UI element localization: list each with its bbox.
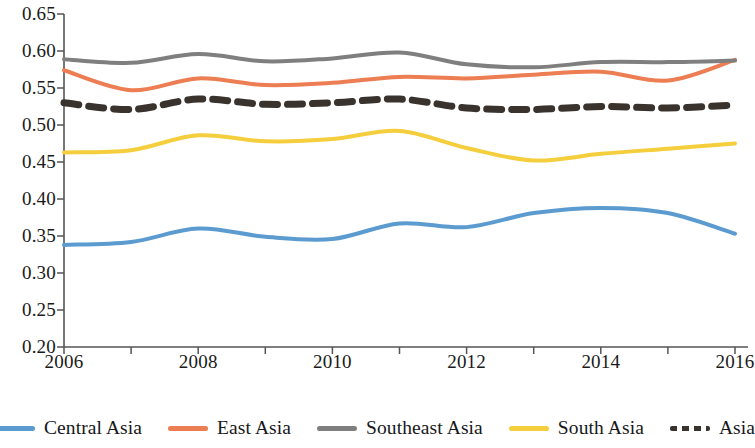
legend-item-label: Southeast Asia (366, 418, 483, 438)
x-tick-label: 2008 (179, 352, 218, 372)
x-tick-label: 2006 (45, 352, 84, 372)
legend-item-central-asia[interactable]: Central Asia (0, 418, 142, 438)
legend-item-southeast-asia[interactable]: Southeast Asia (317, 418, 483, 438)
legend-swatch-icon (317, 426, 357, 431)
legend-item-label: Asia (719, 418, 755, 438)
x-tick-label: 2010 (313, 352, 352, 372)
plot-svg (0, 0, 750, 382)
legend-swatch-icon (509, 426, 549, 431)
legend-item-label: East Asia (217, 418, 291, 438)
series-line-central-asia (64, 208, 735, 245)
legend-item-east-asia[interactable]: East Asia (168, 418, 291, 438)
series-line-asia (64, 99, 735, 110)
plot-area: 0.200.250.300.350.400.450.500.550.600.65… (0, 0, 750, 382)
x-tick-label: 2014 (581, 352, 620, 372)
x-tick-label: 2012 (447, 352, 486, 372)
chart-legend: Central AsiaEast AsiaSoutheast AsiaSouth… (0, 408, 750, 448)
legend-item-label: Central Asia (44, 418, 142, 438)
legend-item-asia[interactable]: Asia (670, 418, 755, 438)
legend-swatch-icon (168, 426, 208, 431)
legend-item-label: South Asia (558, 418, 644, 438)
series-line-east-asia (64, 60, 735, 90)
series-line-southeast-asia (64, 52, 735, 67)
legend-item-south-asia[interactable]: South Asia (509, 418, 644, 438)
data-series (64, 52, 735, 245)
series-line-south-asia (64, 131, 735, 161)
legend-swatch-icon (670, 426, 710, 431)
legend-swatch-icon (0, 426, 35, 431)
axis-ticks (57, 14, 735, 354)
x-tick-label: 2016 (716, 352, 755, 372)
